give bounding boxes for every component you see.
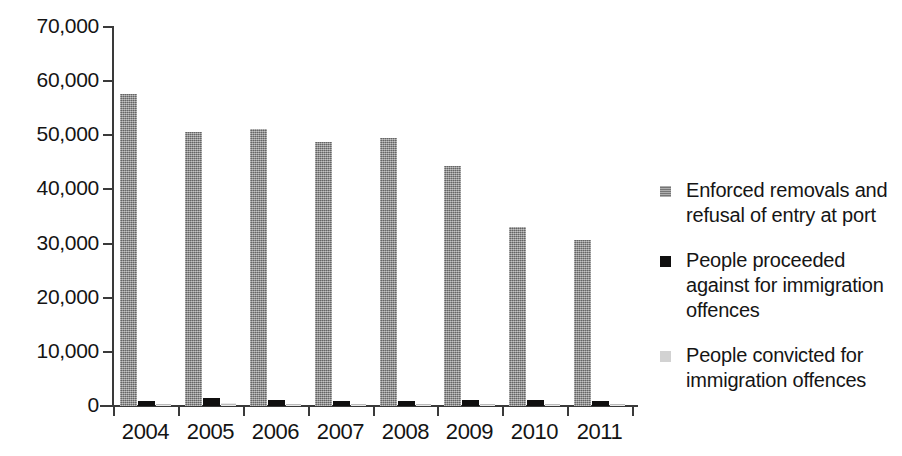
legend-entry-2[interactable]: People proceeded against for immigration… bbox=[660, 248, 902, 323]
bar-series-1-2009 bbox=[444, 166, 461, 406]
bar-series-3-2009 bbox=[480, 404, 495, 406]
y-axis-tick bbox=[103, 134, 113, 136]
x-axis-tick-label: 2008 bbox=[373, 420, 438, 444]
x-axis-tick-label: 2007 bbox=[308, 420, 373, 444]
y-axis-tick-label: 20,000 bbox=[3, 286, 99, 307]
bar-series-3-2005 bbox=[221, 403, 236, 406]
legend-swatch-icon bbox=[660, 186, 671, 197]
y-axis-tick bbox=[103, 80, 113, 82]
legend-entry-1[interactable]: Enforced removals and refusal of entry a… bbox=[660, 178, 902, 228]
x-axis-tick bbox=[632, 406, 634, 416]
bar-series-2-2009 bbox=[462, 400, 479, 407]
y-axis-tick-label: 70,000 bbox=[3, 15, 99, 36]
bar-series-1-2007 bbox=[315, 142, 332, 406]
x-axis-tick bbox=[308, 406, 310, 416]
y-axis-tick bbox=[103, 188, 113, 190]
y-axis-tick-label: 60,000 bbox=[3, 69, 99, 90]
legend-label: People proceeded against for immigration… bbox=[686, 249, 884, 321]
legend-swatch-icon bbox=[660, 351, 671, 362]
bar-series-3-2006 bbox=[286, 404, 301, 406]
bar-series-3-2007 bbox=[351, 404, 366, 406]
bar-series-1-2011 bbox=[574, 240, 591, 406]
bar-series-2-2011 bbox=[592, 401, 609, 406]
bar-series-1-2004 bbox=[120, 94, 137, 406]
bar-chart-figure: 70,00060,00050,00040,00030,00020,00010,0… bbox=[0, 0, 902, 456]
bar-series-3-2008 bbox=[416, 404, 431, 406]
bar-series-2-2010 bbox=[527, 400, 544, 406]
y-axis-tick bbox=[103, 243, 113, 245]
bar-series-3-2011 bbox=[610, 404, 625, 406]
x-axis-tick-label: 2011 bbox=[567, 420, 632, 444]
y-axis-tick-label: 0 bbox=[3, 394, 99, 415]
legend-entry-3[interactable]: People convicted for immigration offence… bbox=[660, 343, 902, 393]
x-axis-tick bbox=[567, 406, 569, 416]
y-axis-tick bbox=[103, 297, 113, 299]
plot-area bbox=[113, 27, 632, 406]
chart-legend: Enforced removals and refusal of entry a… bbox=[660, 178, 902, 413]
legend-label: Enforced removals and refusal of entry a… bbox=[686, 179, 887, 226]
y-axis-tick-label: 50,000 bbox=[3, 123, 99, 144]
legend-label: People convicted for immigration offence… bbox=[686, 344, 866, 391]
x-axis-tick-label: 2006 bbox=[243, 420, 308, 444]
bar-series-1-2006 bbox=[250, 129, 267, 406]
x-axis-tick bbox=[113, 406, 115, 416]
bar-series-2-2008 bbox=[398, 401, 415, 406]
y-axis-tick-label: 30,000 bbox=[3, 232, 99, 253]
y-axis-tick-label: 40,000 bbox=[3, 177, 99, 198]
bar-series-2-2006 bbox=[268, 400, 285, 407]
bar-series-3-2004 bbox=[156, 404, 171, 406]
bar-series-2-2004 bbox=[138, 401, 155, 406]
y-axis-tick bbox=[103, 26, 113, 28]
bar-series-3-2010 bbox=[545, 404, 560, 406]
x-axis-tick-label: 2010 bbox=[502, 420, 567, 444]
bar-series-1-2005 bbox=[185, 132, 202, 406]
x-axis-tick bbox=[373, 406, 375, 416]
x-axis-tick bbox=[502, 406, 504, 416]
legend-swatch-icon bbox=[660, 256, 671, 267]
bar-series-2-2007 bbox=[333, 401, 350, 406]
bar-series-2-2005 bbox=[203, 398, 220, 406]
x-axis-tick bbox=[437, 406, 439, 416]
bar-series-1-2008 bbox=[380, 138, 397, 406]
y-axis-tick bbox=[103, 351, 113, 353]
bar-series-1-2010 bbox=[509, 227, 526, 406]
x-axis-tick bbox=[243, 406, 245, 416]
x-axis-tick bbox=[178, 406, 180, 416]
x-axis-tick-label: 2005 bbox=[178, 420, 243, 444]
x-axis-tick-label: 2004 bbox=[113, 420, 178, 444]
x-axis-tick-label: 2009 bbox=[437, 420, 502, 444]
y-axis-tick-label: 10,000 bbox=[3, 340, 99, 361]
